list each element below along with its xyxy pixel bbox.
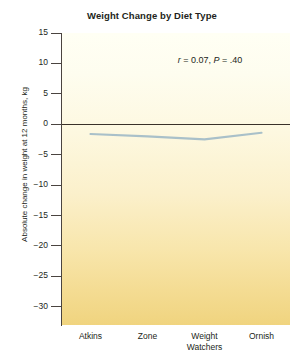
y-axis-tick-label: −20	[0, 241, 48, 250]
y-axis-tick	[51, 93, 61, 94]
data-series-line	[62, 33, 290, 325]
x-axis-tick-label-line: Zone	[119, 331, 176, 342]
x-axis-tick-label: Atkins	[62, 331, 119, 342]
y-axis-tick	[51, 33, 61, 34]
x-axis-tick-label: Ornish	[233, 331, 290, 342]
x-axis-tick-label-line: Weight	[176, 331, 233, 342]
y-axis-tick-label: −25	[0, 271, 48, 280]
y-axis-tick-label: −30	[0, 302, 48, 311]
annotation-text: = 0.07,	[181, 55, 214, 65]
y-axis-tick	[51, 185, 61, 186]
annotation-text: = .40	[220, 55, 243, 65]
chart-figure: Weight Change by Diet Type Absolute chan…	[0, 0, 304, 364]
y-axis-tick-label: −10	[0, 180, 48, 189]
correlation-annotation: r = 0.07, P = .40	[140, 55, 280, 65]
y-axis-tick-label: −5	[0, 150, 48, 159]
y-axis-tick-label: 15	[0, 28, 48, 37]
y-axis-tick-label: −15	[0, 211, 48, 220]
x-axis-tick-label-line: Ornish	[233, 331, 290, 342]
x-axis-tick-label: Zone	[119, 331, 176, 342]
y-axis-tick-label: 10	[0, 58, 48, 67]
chart-title: Weight Change by Diet Type	[0, 10, 304, 21]
y-axis-tick	[51, 124, 61, 125]
y-axis-tick-label: 0	[0, 119, 48, 128]
y-axis-tick	[51, 215, 61, 216]
y-axis-tick-label: 5	[0, 89, 48, 98]
x-axis-tick-label: WeightWatchers	[176, 331, 233, 353]
y-axis-tick	[51, 245, 61, 246]
y-axis-tick	[51, 306, 61, 307]
x-axis-tick-label-line: Watchers	[176, 342, 233, 353]
y-axis-tick	[51, 276, 61, 277]
y-axis-tick	[51, 154, 61, 155]
x-axis-tick-label-line: Atkins	[62, 331, 119, 342]
y-axis-tick	[51, 63, 61, 64]
